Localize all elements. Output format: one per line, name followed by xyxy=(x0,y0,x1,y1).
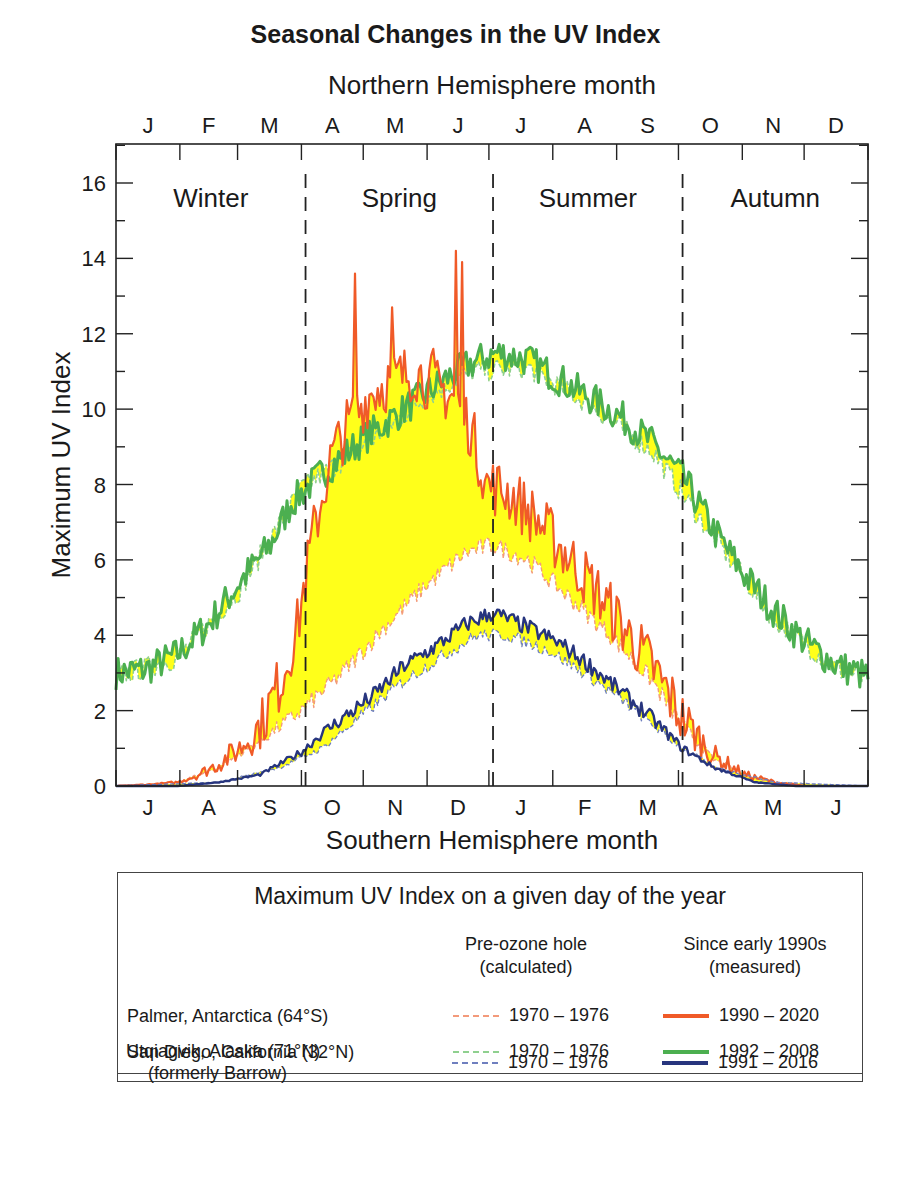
top-month-tick: J xyxy=(453,113,464,138)
legend-row-utqiagvik: Utqiagvik, Alaska (71°N) xyxy=(126,1040,320,1063)
y-tick-label: 2 xyxy=(94,699,106,724)
legend-entry-palmer-pre: 1970 – 1976 xyxy=(453,1005,609,1026)
legend-entry-palmer-measured: 1990 – 2020 xyxy=(663,1005,819,1026)
legend-col-measured: Since early 1990s (measured) xyxy=(650,933,860,979)
season-label-winter: Winter xyxy=(173,183,248,213)
legend-palmer-pre-years: 1970 – 1976 xyxy=(509,1005,609,1026)
fill-band-0 xyxy=(116,251,868,786)
legend-col-pre-ozone: Pre-ozone hole (calculated) xyxy=(436,933,616,979)
y-tick-label: 6 xyxy=(94,548,106,573)
solid-line-swatch-utqiagvik xyxy=(662,1061,708,1065)
y-axis-label: Maximum UV Index xyxy=(46,352,76,579)
bottom-month-tick: J xyxy=(142,795,153,820)
season-label-spring: Spring xyxy=(362,183,437,213)
ozone-difference-fills xyxy=(116,251,868,786)
bottom-month-tick: N xyxy=(387,795,403,820)
solid-line-swatch-palmer xyxy=(663,1014,709,1018)
dashed-line-swatch-palmer xyxy=(453,1015,499,1017)
uv-index-plot: WinterSpringSummerAutumn 0246810121416Ma… xyxy=(0,0,911,870)
top-month-tick: J xyxy=(515,113,526,138)
top-month-tick: J xyxy=(142,113,153,138)
y-tick-label: 8 xyxy=(94,473,106,498)
season-label-autumn: Autumn xyxy=(730,183,820,213)
top-month-tick: D xyxy=(828,113,844,138)
bottom-month-tick: M xyxy=(638,795,656,820)
y-tick-label: 4 xyxy=(94,623,106,648)
dashed-line-swatch-utqiagvik xyxy=(452,1062,498,1064)
legend-entry-utqiagvik-pre: 1970 – 1976 xyxy=(452,1052,608,1073)
bottom-month-tick: M xyxy=(764,795,782,820)
top-month-tick: M xyxy=(260,113,278,138)
bottom-month-tick: S xyxy=(262,795,277,820)
bottom-month-tick: D xyxy=(450,795,466,820)
legend-entry-utqiagvik-measured: 1991 – 2016 xyxy=(662,1052,818,1073)
y-tick-label: 12 xyxy=(82,322,106,347)
line-utqiagvik-pre xyxy=(116,629,868,786)
season-label-summer: Summer xyxy=(539,183,638,213)
top-month-tick: A xyxy=(325,113,340,138)
bottom-month-tick: F xyxy=(578,795,591,820)
top-month-tick: M xyxy=(386,113,404,138)
top-month-tick: N xyxy=(765,113,781,138)
top-month-tick: O xyxy=(702,113,719,138)
top-month-tick: F xyxy=(202,113,215,138)
legend-utqiagvik-measured-years: 1991 – 2016 xyxy=(718,1052,818,1073)
legend-col-pre-line2: (calculated) xyxy=(436,956,616,979)
legend-col-measured-line1: Since early 1990s xyxy=(650,933,860,956)
y-tick-label: 14 xyxy=(82,246,106,271)
y-tick-label: 0 xyxy=(94,774,106,799)
legend-title: Maximum UV Index on a given day of the y… xyxy=(118,883,862,910)
y-tick-label: 10 xyxy=(82,397,106,422)
legend-row-palmer: Palmer, Antarctica (64°S) xyxy=(127,1005,328,1028)
legend-col-pre-line1: Pre-ozone hole xyxy=(436,933,616,956)
y-tick-label: 16 xyxy=(82,171,106,196)
legend-row-utqiagvik-sublabel: (formerly Barrow) xyxy=(148,1063,287,1084)
bottom-month-tick: J xyxy=(831,795,842,820)
bottom-month-tick: A xyxy=(703,795,718,820)
bottom-month-tick: J xyxy=(515,795,526,820)
top-month-tick: A xyxy=(577,113,592,138)
top-month-tick: S xyxy=(640,113,655,138)
legend-utqiagvik-pre-years: 1970 – 1976 xyxy=(508,1052,608,1073)
plot-frame xyxy=(116,144,868,786)
legend-col-measured-line2: (measured) xyxy=(650,956,860,979)
legend-palmer-measured-years: 1990 – 2020 xyxy=(719,1005,819,1026)
bottom-month-tick: A xyxy=(201,795,216,820)
bottom-month-tick: O xyxy=(324,795,341,820)
